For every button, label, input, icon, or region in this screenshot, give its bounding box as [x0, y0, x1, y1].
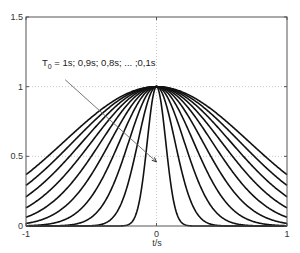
y-tick-labels: 00.511.5 — [10, 12, 23, 231]
annotation-text: T0 = 1s; 0,9s; 0,8s; ... ;0,1s — [42, 57, 156, 70]
y-tick-label: 0.5 — [10, 151, 23, 161]
y-tick-label: 0 — [18, 221, 23, 231]
x-tick-label: 1 — [284, 229, 289, 239]
grid-lines — [26, 17, 287, 226]
x-axis-label: t/s — [152, 238, 162, 248]
chart: -101 00.511.5 t/s T0 = 1s; 0,9s; 0,8s; .… — [0, 0, 300, 253]
y-tick-label: 1 — [18, 82, 23, 92]
curve-line — [26, 87, 287, 197]
x-tick-label: -1 — [22, 229, 30, 239]
y-tick-label: 1.5 — [10, 12, 23, 22]
